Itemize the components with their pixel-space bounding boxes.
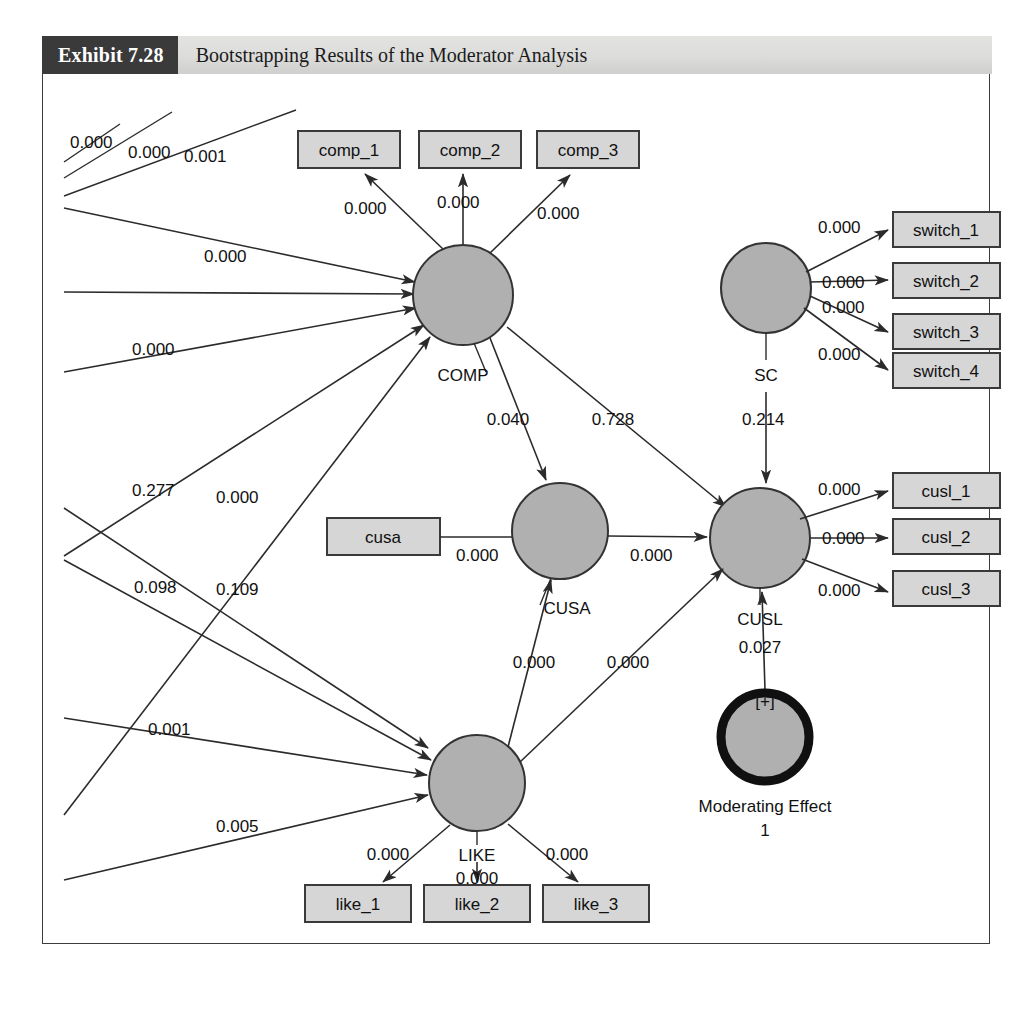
exhibit-number: Exhibit 7.28	[42, 36, 178, 74]
exhibit-title: Bootstrapping Results of the Moderator A…	[178, 36, 588, 74]
diagram-frame	[42, 74, 990, 944]
exhibit-page: Exhibit 7.28 Bootstrapping Results of th…	[0, 0, 1009, 1010]
exhibit-header: Exhibit 7.28 Bootstrapping Results of th…	[42, 36, 992, 74]
